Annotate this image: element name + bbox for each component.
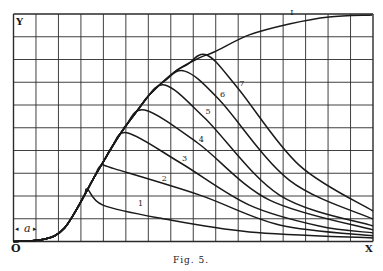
curve-label-2: 2 bbox=[162, 174, 167, 183]
curve-label-4: 4 bbox=[199, 135, 204, 144]
delay-annotation: ◂ a ▸ bbox=[15, 222, 37, 235]
delay-label: a bbox=[24, 222, 31, 235]
y-axis-label: Y bbox=[15, 16, 24, 27]
delay-arrow-right: ▸ bbox=[33, 225, 37, 233]
delay-arrow-left: ◂ bbox=[15, 225, 19, 233]
chart: I1234567 Y X O ◂ a ▸ Fig. 5. bbox=[0, 0, 383, 271]
curve-label-3: 3 bbox=[182, 154, 187, 163]
origin-label: O bbox=[11, 242, 21, 255]
figure-caption: Fig. 5. bbox=[173, 255, 209, 265]
curve-label-1: 1 bbox=[138, 199, 143, 208]
curve-label-6: 6 bbox=[220, 90, 225, 99]
curve-label-5: 5 bbox=[205, 107, 210, 116]
curve-label-I: I bbox=[290, 8, 293, 17]
x-axis-label: X bbox=[365, 243, 373, 254]
curve-label-7: 7 bbox=[239, 79, 244, 88]
grid bbox=[14, 14, 374, 242]
